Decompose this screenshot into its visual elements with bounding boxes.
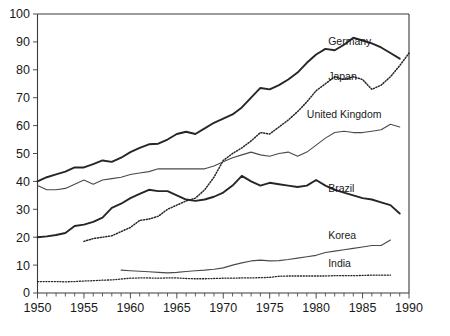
- y-tick-label: 80: [16, 63, 30, 77]
- y-tick-label: 40: [16, 175, 30, 189]
- y-tick-label: 70: [16, 91, 30, 105]
- x-tick-label: 1985: [349, 301, 377, 315]
- line-chart: 0102030405060708090100 19501955196019651…: [0, 0, 450, 336]
- x-tick-label: 1970: [209, 301, 237, 315]
- y-tick-label: 90: [16, 35, 30, 49]
- series-line-japan: [84, 53, 409, 241]
- y-tick-label: 60: [16, 119, 30, 133]
- y-tick-label: 10: [16, 259, 30, 273]
- series-label-united-kingdom: United Kingdom: [307, 108, 382, 120]
- x-tick-label: 1965: [163, 301, 191, 315]
- series-line-india: [38, 275, 391, 282]
- y-axis-tick-labels: 0102030405060708090100: [9, 7, 30, 300]
- series-line-united-kingdom: [38, 124, 400, 190]
- y-axis-ticks: [33, 14, 38, 293]
- x-tick-label: 1955: [70, 301, 98, 315]
- y-tick-label: 100: [9, 7, 30, 21]
- series-label-korea: Korea: [328, 229, 356, 241]
- series-label-brazil: Brazil: [328, 182, 354, 194]
- x-axis-tick-labels: 195019551960196519701975198019851990: [24, 301, 423, 315]
- x-tick-label: 1980: [302, 301, 330, 315]
- x-tick-label: 1950: [24, 301, 52, 315]
- x-tick-label: 1975: [256, 301, 284, 315]
- series-label-germany: Germany: [328, 35, 372, 47]
- x-tick-label: 1990: [395, 301, 423, 315]
- axes: [38, 14, 410, 293]
- x-axis-ticks: [38, 293, 410, 299]
- y-tick-label: 0: [23, 286, 30, 300]
- series-label-india: India: [328, 257, 351, 269]
- series-label-japan: Japan: [328, 70, 357, 82]
- y-tick-label: 30: [16, 203, 30, 217]
- y-tick-label: 20: [16, 231, 30, 245]
- series-labels: GermanyJapanUnited KingdomBrazilKoreaInd…: [307, 35, 382, 269]
- chart-container: 0102030405060708090100 19501955196019651…: [0, 0, 450, 336]
- y-tick-label: 50: [16, 147, 30, 161]
- x-tick-label: 1960: [116, 301, 144, 315]
